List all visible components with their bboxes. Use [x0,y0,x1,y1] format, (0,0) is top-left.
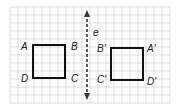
square-original [33,45,65,78]
vertex-label-C: C [71,73,79,84]
vertex-label-D: D [21,73,28,84]
vertex-label-C-prime: C' [97,74,107,85]
vertex-label-A: A [20,41,28,52]
vertex-label-B: B [71,41,78,52]
vertex-label-B-prime: B' [97,43,107,54]
arrow-down-icon [84,93,90,100]
vertex-label-A-prime: A' [146,43,157,54]
reflection-diagram: e A B C D B' A' C' D' [0,0,179,110]
line-label-e: e [93,27,99,38]
arrow-up-icon [84,10,90,17]
vertex-label-D-prime: D' [147,76,157,87]
square-ABCD: A B C D [20,41,79,84]
